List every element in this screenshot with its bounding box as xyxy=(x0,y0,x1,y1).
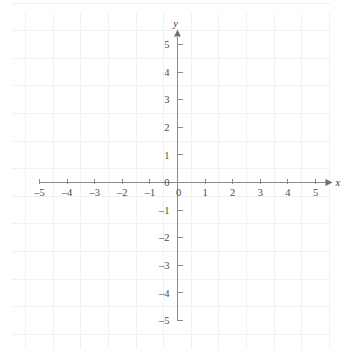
y-tick-label: –3 xyxy=(158,260,170,271)
y-tick-label: 2 xyxy=(164,122,169,133)
grid-lines xyxy=(12,3,331,349)
origin-label-y-axis: 0 xyxy=(164,177,169,188)
x-tick-label: 2 xyxy=(230,187,235,198)
y-axis-label: y xyxy=(172,18,178,29)
y-tick-label: 4 xyxy=(164,67,170,78)
x-tick-label: –2 xyxy=(116,187,128,198)
y-tick-label: –1 xyxy=(158,205,170,216)
x-tick-label: 1 xyxy=(202,187,207,198)
x-tick-label: 4 xyxy=(285,187,291,198)
y-tick-label: –4 xyxy=(158,288,170,299)
coordinate-plane-svg: –5–4–3–2–11234554321–1–2–3–4–5 x y 0 0 xyxy=(0,0,341,360)
axis-lines xyxy=(40,30,333,321)
x-tick-label: –3 xyxy=(88,187,100,198)
y-tick-label: 3 xyxy=(164,94,169,105)
x-tick-label: –1 xyxy=(144,187,156,198)
origin-label-x-axis: 0 xyxy=(176,187,181,198)
x-tick-label: –4 xyxy=(61,187,73,198)
x-tick-label: 3 xyxy=(258,187,263,198)
y-tick-label: –2 xyxy=(158,232,170,243)
y-tick-label: 1 xyxy=(164,150,169,161)
coordinate-plane-figure: –5–4–3–2–11234554321–1–2–3–4–5 x y 0 0 xyxy=(0,0,341,360)
y-tick-label: 5 xyxy=(164,39,169,50)
x-axis-label: x xyxy=(335,177,341,188)
y-tick-label: –5 xyxy=(158,315,170,326)
x-tick-label: 5 xyxy=(313,187,318,198)
x-tick-label: –5 xyxy=(33,187,45,198)
